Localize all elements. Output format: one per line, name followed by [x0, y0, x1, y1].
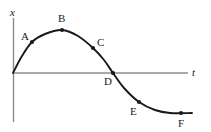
data-point-marker-e	[137, 100, 141, 104]
x-axis-label: t	[192, 67, 195, 78]
data-point-marker-b	[60, 28, 64, 32]
point-label-a: A	[21, 31, 29, 42]
point-label-b: B	[58, 13, 65, 24]
y-axis-label: x	[10, 7, 15, 18]
data-point-marker-c	[91, 46, 95, 50]
data-point-markers	[30, 28, 183, 115]
point-label-e: E	[130, 106, 137, 117]
displacement-time-graph-figure: x t A B C D E F	[0, 0, 211, 132]
point-label-d: D	[104, 76, 112, 87]
plot-canvas	[0, 0, 211, 132]
point-label-c: C	[97, 37, 104, 48]
data-point-marker-a	[30, 40, 34, 44]
data-point-marker-f	[179, 111, 183, 115]
point-label-f: F	[178, 118, 184, 129]
